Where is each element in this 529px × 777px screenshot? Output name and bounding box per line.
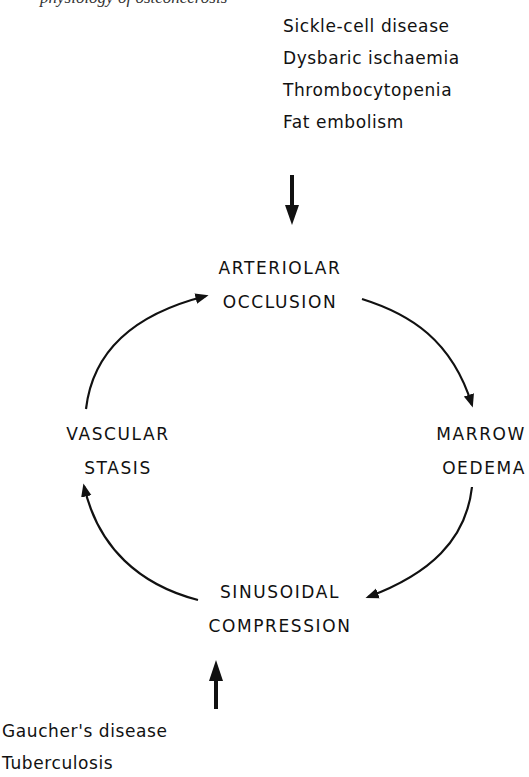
node-vascular-stasis: VASCULAR STASIS: [58, 417, 178, 485]
node-label-line: OCCLUSION: [205, 285, 355, 319]
cropped-caption: physiology of osteonecrosis: [40, 0, 227, 8]
node-label-line: STASIS: [58, 451, 178, 485]
up-arrow-icon: [209, 660, 223, 709]
cause-tuberculosis: Tuberculosis: [2, 747, 168, 777]
node-sinusoidal-compression: SINUSOIDAL COMPRESSION: [196, 575, 364, 643]
cycle-arrow-stasis-to-occlusion: [86, 296, 206, 409]
cycle-arrow-compression-to-stasis: [84, 486, 198, 600]
node-label-line: SINUSOIDAL: [196, 575, 364, 609]
node-arteriolar-occlusion: ARTERIOLAR OCCLUSION: [205, 251, 355, 319]
node-label-line: MARROW: [418, 417, 526, 451]
node-label-line: COMPRESSION: [196, 609, 364, 643]
node-label-line: ARTERIOLAR: [205, 251, 355, 285]
down-arrow-icon: [285, 175, 299, 225]
cycle-arrow-occlusion-to-oedema: [362, 299, 472, 405]
cause-gauchers-disease: Gaucher's disease: [2, 715, 168, 747]
node-marrow-oedema: MARROW OEDEMA: [418, 417, 526, 485]
downstream-cause-list: Gaucher's disease Tuberculosis: [2, 715, 168, 777]
node-label-line: VASCULAR: [58, 417, 178, 451]
cycle-arrow-oedema-to-compression: [368, 487, 472, 597]
upstream-cause-list: Sickle-cell disease Dysbaric ischaemia T…: [283, 10, 460, 138]
cause-dysbaric-ischaemia: Dysbaric ischaemia: [283, 42, 460, 74]
cause-fat-embolism: Fat embolism: [283, 106, 460, 138]
node-label-line: OEDEMA: [418, 451, 526, 485]
cause-sickle-cell: Sickle-cell disease: [283, 10, 460, 42]
cause-thrombocytopenia: Thrombocytopenia: [283, 74, 460, 106]
